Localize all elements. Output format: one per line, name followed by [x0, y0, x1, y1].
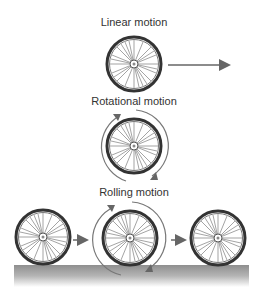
- rotation-arrowhead-bottom-icon: [150, 172, 158, 180]
- rolling-arrowhead-top-icon: [107, 205, 115, 212]
- rolling-wheel-end-icon: [191, 211, 245, 265]
- rotational-wheel-icon: [107, 119, 161, 173]
- motion-diagram: [0, 0, 263, 290]
- rolling-wheel-middle-icon: [103, 211, 157, 265]
- linear-wheel-icon: [107, 37, 161, 91]
- ground-surface: [14, 265, 249, 287]
- rolling-wheel-start-icon: [16, 210, 70, 264]
